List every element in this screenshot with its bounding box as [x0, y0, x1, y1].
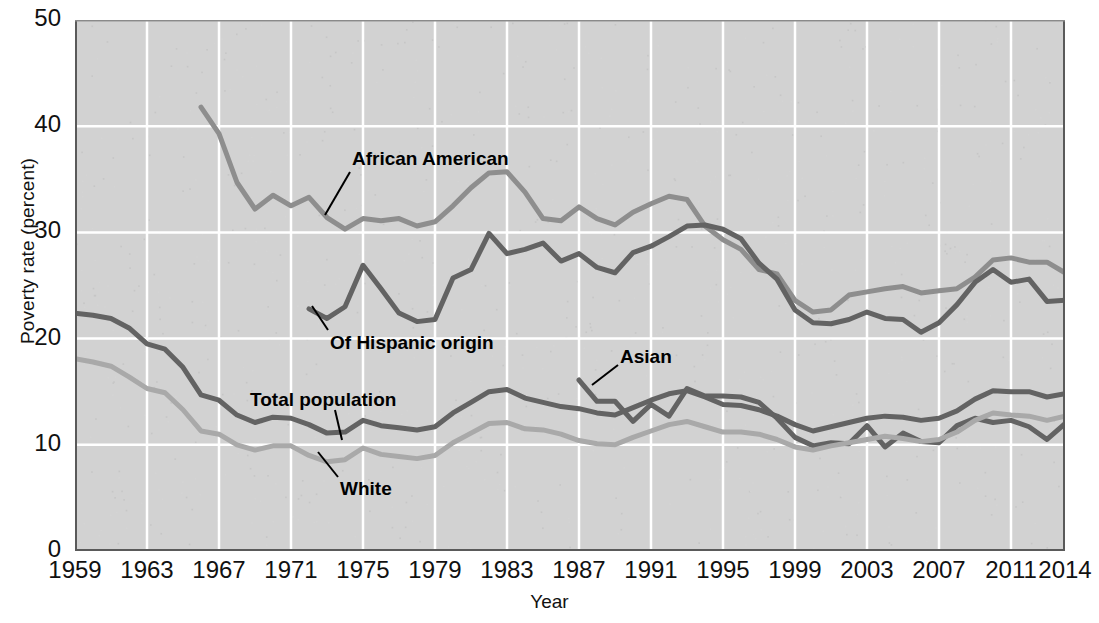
x-axis-title: Year	[0, 591, 1099, 613]
series-label-african-american: African American	[352, 148, 509, 170]
plot-background	[75, 20, 1065, 551]
y-tick-50: 50	[0, 4, 61, 32]
y-tick-10: 10	[0, 429, 61, 457]
series-label-of-hispanic-origin: Of Hispanic origin	[330, 332, 494, 354]
series-label-total-population: Total population	[250, 389, 396, 411]
x-tick-2014: 2014	[1020, 556, 1099, 584]
series-label-white: White	[340, 478, 392, 500]
y-tick-20: 20	[0, 323, 61, 351]
y-tick-30: 30	[0, 216, 61, 244]
plot-area	[75, 20, 1065, 551]
series-label-asian: Asian	[620, 346, 672, 368]
series-canvas	[75, 20, 1065, 551]
y-tick-40: 40	[0, 110, 61, 138]
poverty-rate-line-chart: Poverty rate (percent) Year 50403020100 …	[0, 0, 1099, 623]
